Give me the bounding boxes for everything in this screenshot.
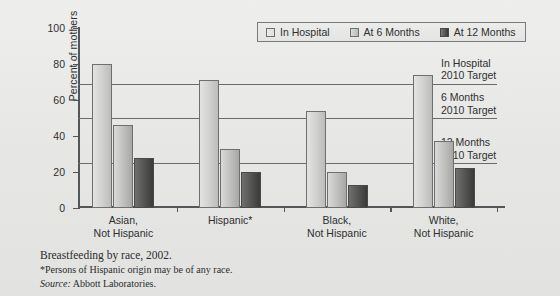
reference-label-line: In Hospital [441, 57, 496, 70]
bar [92, 64, 112, 208]
x-tick [497, 208, 498, 212]
chart-figure: In Hospital At 6 Months At 12 Months Per… [0, 0, 560, 296]
bar [348, 185, 368, 208]
caption-footnote: *Persons of Hispanic origin may be of an… [40, 263, 232, 277]
category-label-line: White, [414, 214, 474, 227]
category-label-line: Not Hispanic [94, 227, 154, 240]
bar [455, 168, 475, 208]
bar [220, 149, 240, 208]
y-tick-label-20: 20 [53, 166, 65, 178]
y-tick-80: 80 [73, 64, 78, 65]
reference-label-line: 2010 Target [441, 104, 496, 117]
reference-label-line: 6 Months [441, 91, 496, 104]
caption-source-lead: Source: [40, 278, 71, 289]
y-tick-40: 40 [73, 136, 78, 137]
y-tick-label-80: 80 [53, 58, 65, 70]
category-label-line: Not Hispanic [414, 227, 474, 240]
bar [199, 80, 219, 208]
reference-label-line: 2010 Target [441, 69, 496, 82]
bar [241, 172, 261, 208]
x-axis-category-label: Asian,Not Hispanic [94, 214, 154, 240]
y-tick-0: 0 [73, 208, 78, 209]
reference-line-2 [78, 118, 497, 119]
y-tick-100: 100 [73, 28, 78, 29]
category-label-line: Hispanic* [208, 214, 252, 227]
caption-title: Breastfeeding by race, 2002. [40, 248, 232, 263]
reference-line-label-2: 6 Months2010 Target [441, 91, 496, 116]
bar [113, 125, 133, 208]
caption-block: Breastfeeding by race, 2002. *Persons of… [40, 248, 232, 291]
y-tick-label-40: 40 [53, 130, 65, 142]
category-label-line: Not Hispanic [307, 227, 367, 240]
y-tick-label-60: 60 [53, 94, 65, 106]
bar [413, 75, 433, 208]
bar [134, 158, 154, 208]
category-label-line: Asian, [94, 214, 154, 227]
x-tick [177, 208, 178, 212]
x-axis-category-label: Hispanic* [208, 214, 252, 227]
bar [434, 141, 454, 208]
bar [306, 111, 326, 208]
caption-source-text: Abbott Laboratories. [73, 278, 156, 289]
x-axis-category-label: White,Not Hispanic [414, 214, 474, 240]
x-tick [284, 208, 285, 212]
y-tick-label-100: 100 [47, 22, 65, 34]
bar [327, 172, 347, 208]
y-tick-label-0: 0 [59, 202, 65, 214]
x-axis-category-label: Black,Not Hispanic [307, 214, 367, 240]
reference-line-1 [78, 84, 497, 85]
x-tick [390, 208, 391, 212]
y-tick-20: 20 [73, 172, 78, 173]
category-label-line: Black, [307, 214, 367, 227]
y-tick-60: 60 [73, 100, 78, 101]
reference-line-label-1: In Hospital2010 Target [441, 57, 496, 82]
caption-source: Source: Abbott Laboratories. [40, 277, 232, 291]
